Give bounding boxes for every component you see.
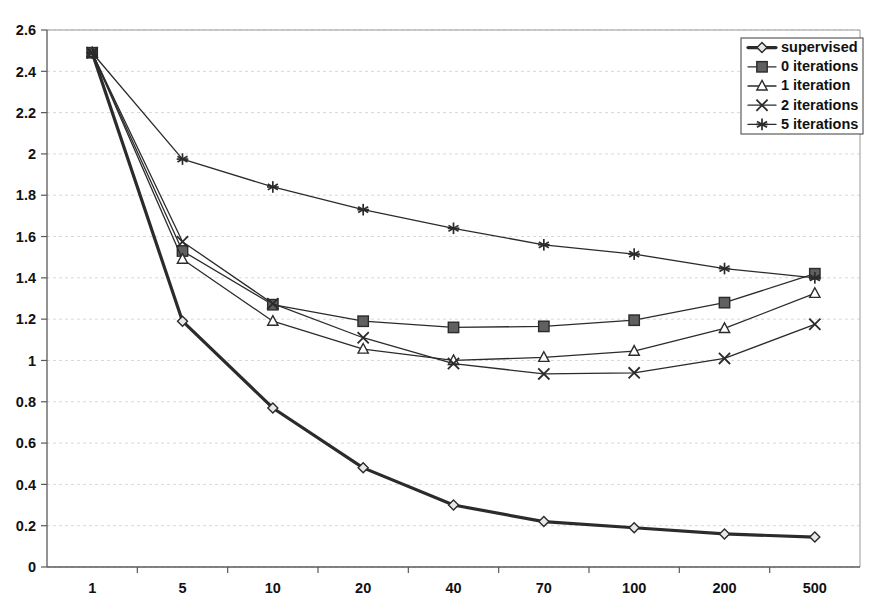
y-tick-label: 0 (28, 559, 36, 575)
x-tick-label: 5 (178, 580, 186, 596)
data-point-diamond-marker (449, 500, 459, 510)
y-tick-label: 2.6 (16, 22, 36, 38)
x-tick-label: 200 (712, 580, 736, 596)
data-point-star-marker (448, 222, 460, 234)
series-line (92, 53, 815, 537)
data-point-star-marker (538, 239, 550, 251)
y-axis-ticks: 00.20.40.60.811.21.41.61.822.22.42.6 (16, 22, 47, 575)
y-tick-label: 0.4 (16, 477, 36, 493)
x-tick-label: 500 (803, 580, 827, 596)
x-tick-label: 40 (445, 580, 461, 596)
data-point-square-marker (629, 315, 639, 325)
x-tick-label: 10 (265, 580, 281, 596)
x-tick-label: 1 (88, 580, 96, 596)
y-tick-label: 2.2 (16, 105, 36, 121)
x-tick-label: 70 (536, 580, 552, 596)
legend-label: 2 iterations (781, 97, 858, 113)
y-tick-label: 0.6 (16, 435, 36, 451)
series-line (92, 53, 815, 278)
line-chart: 00.20.40.60.811.21.41.61.822.22.42.6 151… (0, 0, 872, 614)
data-point-x-marker (358, 332, 369, 343)
y-tick-label: 1.2 (16, 311, 36, 327)
x-tick-label: 20 (355, 580, 371, 596)
data-point-star-marker (628, 248, 640, 260)
data-point-square-marker (358, 316, 368, 326)
data-point-triangle-marker (810, 288, 820, 298)
y-tick-label: 0.2 (16, 518, 36, 534)
data-point-square-marker (757, 62, 767, 72)
data-point-star-marker (357, 204, 369, 216)
data-point-x-marker (809, 319, 820, 330)
data-point-star-marker (267, 181, 279, 193)
chart-canvas: 00.20.40.60.811.21.41.61.822.22.42.6 151… (0, 0, 872, 614)
y-tick-label: 2 (28, 146, 36, 162)
data-point-star-marker (719, 263, 731, 275)
series-supervised (87, 48, 820, 542)
data-point-square-marker (448, 322, 458, 332)
x-tick-label: 100 (622, 580, 646, 596)
data-point-triangle-marker (268, 316, 278, 326)
series-line (92, 53, 815, 361)
data-point-square-marker (719, 297, 729, 307)
series-1-iteration (87, 47, 820, 364)
legend-label: 1 iteration (781, 77, 850, 93)
data-point-square-marker (539, 321, 549, 331)
series-layer (86, 47, 820, 542)
data-point-diamond-marker (810, 532, 820, 542)
legend-label: supervised (781, 39, 858, 55)
y-tick-label: 1.4 (16, 270, 36, 286)
legend-label: 0 iterations (781, 58, 858, 74)
x-axis-ticks: 1510204070100200500 (88, 567, 827, 596)
y-tick-label: 0.8 (16, 394, 36, 410)
y-tick-label: 1.6 (16, 229, 36, 245)
y-tick-label: 1.8 (16, 187, 36, 203)
y-tick-label: 1 (28, 353, 36, 369)
series-5-iterations (86, 47, 820, 284)
legend-label: 5 iterations (781, 116, 858, 132)
y-tick-label: 2.4 (16, 64, 36, 80)
series-0-iterations (87, 48, 820, 333)
data-point-diamond-marker (539, 517, 549, 527)
data-point-diamond-marker (629, 523, 639, 533)
data-point-diamond-marker (720, 529, 730, 539)
chart-legend: supervised0 iterations1 iteration2 itera… (741, 38, 863, 134)
series-line (92, 53, 815, 328)
